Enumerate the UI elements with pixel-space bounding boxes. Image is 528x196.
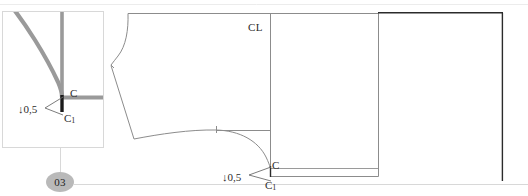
main-point-c-label: C [272,160,279,171]
detail-point-c-label: C [70,88,77,99]
right-panel-outline [378,13,503,181]
center-line-label: CL [248,22,263,33]
pattern-drawing-canvas: CL C C1 C C1 ↓0,5 ↓0,5 03 [0,0,528,196]
detail-point-c1-label: C1 [64,113,75,124]
drawing-vector-layer [0,0,528,196]
pattern-side-seam [111,66,134,140]
main-dimension-value: 0,5 [228,171,242,183]
pattern-armhole-curve [111,14,128,66]
main-point-c1-subscript: 1 [272,183,276,192]
detail-dimension-label: ↓0,5 [18,104,37,115]
main-dimension-label: ↓0,5 [222,172,241,183]
detail-point-c1-subscript: 1 [71,116,75,125]
pattern-hem-curve [134,130,270,167]
step-number-badge: 03 [46,172,74,192]
leader-to-c-main [249,167,271,175]
detail-dimension-value: 0,5 [24,103,38,115]
main-point-c1-label: C1 [265,180,276,191]
main-pattern-outline [111,13,379,177]
detail-inset-frame [3,12,104,148]
